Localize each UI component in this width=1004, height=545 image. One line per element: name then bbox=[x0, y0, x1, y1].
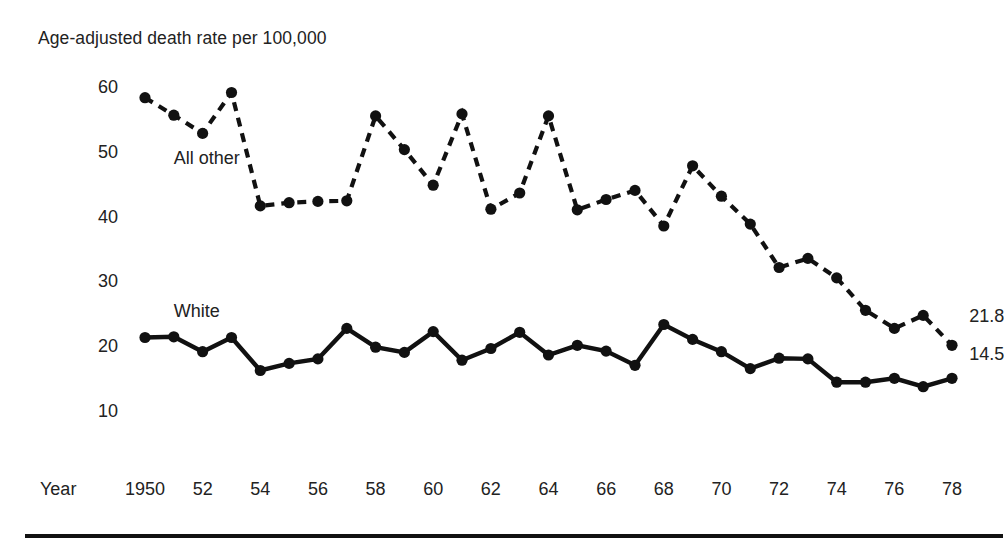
data-point bbox=[946, 340, 957, 351]
data-point bbox=[774, 262, 785, 273]
data-point bbox=[572, 340, 583, 351]
x-axis-tick-label: 56 bbox=[308, 479, 328, 500]
data-point bbox=[197, 346, 208, 357]
data-point bbox=[428, 180, 439, 191]
x-axis-tick-label: 66 bbox=[596, 479, 616, 500]
data-point bbox=[658, 319, 669, 330]
data-point bbox=[226, 332, 237, 343]
data-point bbox=[918, 381, 929, 392]
data-point bbox=[658, 220, 669, 231]
x-axis-caption: Year bbox=[40, 479, 76, 500]
data-point bbox=[456, 108, 467, 119]
x-axis-tick-label: 78 bbox=[942, 479, 962, 500]
data-point bbox=[716, 346, 727, 357]
x-axis-tick-label: 54 bbox=[250, 479, 270, 500]
data-point bbox=[312, 353, 323, 364]
data-point bbox=[226, 87, 237, 98]
data-point bbox=[831, 272, 842, 283]
bottom-rule-divider bbox=[25, 534, 1003, 538]
end-value-label: 21.8 bbox=[969, 306, 1004, 327]
y-axis-tick-label: 30 bbox=[72, 271, 118, 292]
x-axis-tick-label: 62 bbox=[481, 479, 501, 500]
data-point bbox=[255, 200, 266, 211]
data-point bbox=[543, 349, 554, 360]
data-point bbox=[197, 128, 208, 139]
data-point bbox=[399, 144, 410, 155]
x-axis-tick-label: 70 bbox=[711, 479, 731, 500]
data-point bbox=[946, 373, 957, 384]
x-axis-tick-label: 58 bbox=[366, 479, 386, 500]
y-axis-tick-label: 20 bbox=[72, 336, 118, 357]
data-point bbox=[774, 353, 785, 364]
data-point bbox=[745, 219, 756, 230]
y-axis-tick-label: 60 bbox=[72, 77, 118, 98]
data-point bbox=[514, 327, 525, 338]
data-point bbox=[456, 355, 467, 366]
data-point bbox=[889, 323, 900, 334]
data-point bbox=[168, 331, 179, 342]
data-point bbox=[860, 305, 871, 316]
data-point bbox=[601, 346, 612, 357]
y-axis-tick-label: 50 bbox=[72, 142, 118, 163]
x-axis-tick-label: 64 bbox=[538, 479, 558, 500]
data-point bbox=[543, 110, 554, 121]
x-axis-tick-label: 1950 bbox=[125, 479, 165, 500]
data-point bbox=[370, 110, 381, 121]
data-point bbox=[428, 326, 439, 337]
x-axis-tick-label: 60 bbox=[423, 479, 443, 500]
series-all-other bbox=[139, 87, 957, 351]
data-point bbox=[139, 92, 150, 103]
x-axis-tick-label: 52 bbox=[193, 479, 213, 500]
x-axis-tick-label: 68 bbox=[654, 479, 674, 500]
data-point bbox=[802, 353, 813, 364]
data-point bbox=[687, 160, 698, 171]
data-point bbox=[341, 323, 352, 334]
data-point bbox=[312, 196, 323, 207]
data-point bbox=[716, 191, 727, 202]
end-value-label: 14.5 bbox=[969, 344, 1004, 365]
data-point bbox=[514, 187, 525, 198]
data-point bbox=[629, 360, 640, 371]
data-point bbox=[370, 342, 381, 353]
data-point bbox=[284, 197, 295, 208]
series-label-white: White bbox=[174, 301, 220, 322]
y-axis-tick-label: 40 bbox=[72, 207, 118, 228]
data-point bbox=[485, 204, 496, 215]
x-axis-tick-label: 74 bbox=[827, 479, 847, 500]
data-point bbox=[341, 195, 352, 206]
data-point bbox=[629, 185, 640, 196]
data-point bbox=[139, 332, 150, 343]
data-point bbox=[745, 363, 756, 374]
y-axis-tick-label: 10 bbox=[72, 401, 118, 422]
data-point bbox=[284, 358, 295, 369]
data-point bbox=[601, 194, 612, 205]
data-point bbox=[572, 204, 583, 215]
data-point bbox=[860, 377, 871, 388]
data-point bbox=[485, 343, 496, 354]
series-white bbox=[139, 319, 957, 392]
data-point bbox=[399, 347, 410, 358]
x-axis-tick-label: 76 bbox=[884, 479, 904, 500]
data-point bbox=[918, 310, 929, 321]
data-point bbox=[889, 373, 900, 384]
data-point bbox=[168, 110, 179, 121]
data-point bbox=[687, 334, 698, 345]
x-axis-tick-label: 72 bbox=[769, 479, 789, 500]
series-line bbox=[145, 93, 952, 346]
data-point bbox=[255, 365, 266, 376]
data-point bbox=[831, 377, 842, 388]
data-point bbox=[802, 253, 813, 264]
series-label-all-other: All other bbox=[174, 148, 240, 169]
